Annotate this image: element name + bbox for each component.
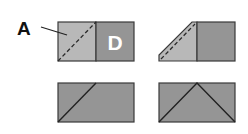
folding-diagram: D A xyxy=(0,0,248,134)
rectangle xyxy=(58,83,134,122)
rectangle xyxy=(159,83,235,122)
dark-square xyxy=(197,22,235,61)
folded-flap xyxy=(159,22,197,61)
step-3-figure xyxy=(58,83,134,122)
step-1-figure: D xyxy=(58,22,134,61)
step-4-figure xyxy=(159,83,235,122)
step-2-figure xyxy=(159,22,235,61)
panel-label-d: D xyxy=(107,31,122,54)
label-a: A xyxy=(17,18,31,39)
